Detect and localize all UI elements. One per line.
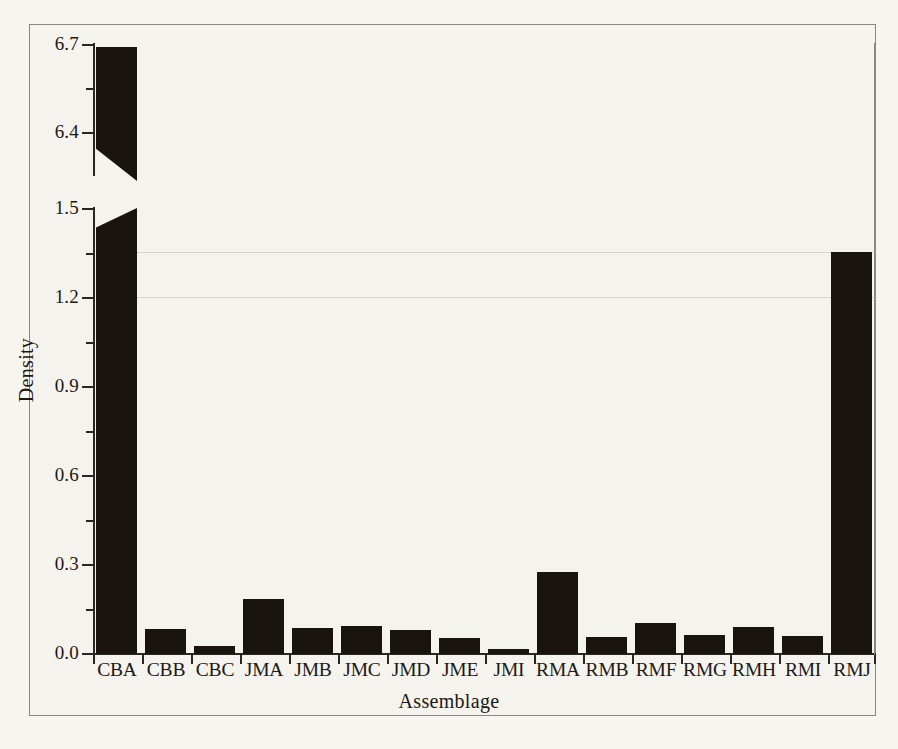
ytick-label-1: 0.3 bbox=[33, 554, 79, 573]
bar-RMB bbox=[586, 637, 627, 654]
bar-RMG bbox=[684, 635, 725, 654]
ytick-6.4 bbox=[82, 132, 93, 134]
figure-page: 0.0 0.3 0.6 0.9 1.2 1.5 6.4 6.7 bbox=[0, 0, 898, 749]
xtick-label-JMA: JMA bbox=[239, 659, 289, 681]
y-axis-lower bbox=[93, 207, 95, 655]
xtick-label-JMC: JMC bbox=[337, 659, 387, 681]
ytick-0.0 bbox=[82, 653, 93, 655]
plot-right-edge bbox=[874, 43, 875, 655]
bar-RMJ bbox=[831, 252, 872, 654]
xtick-label-RMF: RMF bbox=[631, 659, 681, 681]
y-axis-upper bbox=[93, 43, 95, 176]
bar-JME bbox=[439, 638, 480, 654]
xtick-label-RMI: RMI bbox=[778, 659, 828, 681]
ytick-label-2: 0.6 bbox=[33, 465, 79, 484]
bar-JMD bbox=[390, 630, 431, 654]
bar-JMB bbox=[292, 628, 333, 654]
plot-area: 0.0 0.3 0.6 0.9 1.2 1.5 6.4 6.7 bbox=[0, 0, 898, 749]
xtick-label-RMH: RMH bbox=[729, 659, 779, 681]
bar-RMF bbox=[635, 623, 676, 654]
ytick-minor-0.75 bbox=[86, 431, 93, 433]
xtick-label-CBB: CBB bbox=[141, 659, 191, 681]
scan-artifact bbox=[96, 252, 876, 253]
xtick-label-RMG: RMG bbox=[680, 659, 730, 681]
ytick-label-0: 0.0 bbox=[33, 643, 79, 662]
ytick-minor-0.45 bbox=[86, 520, 93, 522]
ytick-0.3 bbox=[82, 564, 93, 566]
ytick-label-upper-0: 6.4 bbox=[33, 122, 79, 141]
bar-RMA bbox=[537, 572, 578, 654]
ytick-label-5: 1.5 bbox=[33, 198, 79, 217]
ytick-minor-1.05 bbox=[86, 342, 93, 344]
scan-artifact bbox=[96, 297, 876, 298]
bar-RMH bbox=[733, 627, 774, 654]
bar-RMI bbox=[782, 636, 823, 654]
ytick-minor-0.15 bbox=[86, 609, 93, 611]
xtick-label-JME: JME bbox=[435, 659, 485, 681]
bar-CBC bbox=[194, 646, 235, 654]
ytick-1.2 bbox=[82, 297, 93, 299]
ytick-0.6 bbox=[82, 475, 93, 477]
ytick-1.5 bbox=[82, 208, 93, 210]
ytick-0.9 bbox=[82, 386, 93, 388]
ytick-6.7 bbox=[82, 44, 93, 46]
bar-JMC bbox=[341, 626, 382, 654]
ytick-minor-6.55 bbox=[86, 88, 93, 90]
xtick-label-CBC: CBC bbox=[190, 659, 240, 681]
bar-CBA-upper bbox=[96, 47, 137, 181]
xtick-label-RMB: RMB bbox=[582, 659, 632, 681]
xtick-label-JMD: JMD bbox=[386, 659, 436, 681]
ytick-minor-1.35 bbox=[86, 253, 93, 255]
ytick-label-upper-1: 6.7 bbox=[33, 34, 79, 53]
y-axis-title: Density bbox=[15, 338, 38, 402]
bar-JMA bbox=[243, 599, 284, 654]
bar-JMI bbox=[488, 649, 529, 654]
xtick-label-JMI: JMI bbox=[484, 659, 534, 681]
xtick-label-JMB: JMB bbox=[288, 659, 338, 681]
ytick-label-4: 1.2 bbox=[33, 287, 79, 306]
x-axis-title: Assemblage bbox=[0, 690, 898, 713]
xtick-label-RMA: RMA bbox=[533, 659, 583, 681]
bar-CBB bbox=[145, 629, 186, 654]
ytick-label-3: 0.9 bbox=[33, 376, 79, 395]
xtick-label-CBA: CBA bbox=[92, 659, 142, 681]
bar-CBA-lower bbox=[96, 208, 137, 654]
xtick-label-RMJ: RMJ bbox=[827, 659, 877, 681]
